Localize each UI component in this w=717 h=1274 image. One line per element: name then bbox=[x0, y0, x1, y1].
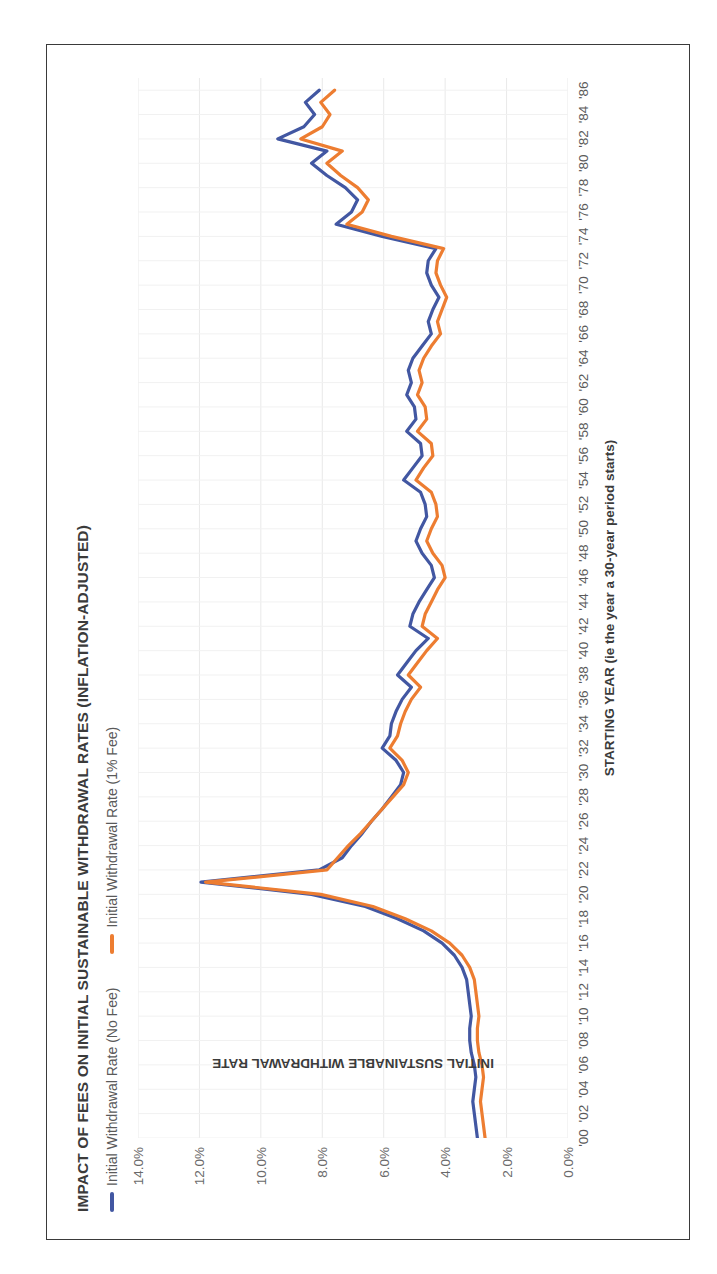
x-tick-label: '22 bbox=[576, 861, 591, 879]
legend-label-one-percent-fee: Initial Withdrawal Rate (1% Fee) bbox=[104, 727, 120, 928]
x-tick-label: '38 bbox=[576, 666, 591, 684]
x-tick-label: '06 bbox=[576, 1056, 591, 1074]
x-tick-label: '78 bbox=[576, 179, 591, 197]
y-tick-label: 10.0% bbox=[253, 1147, 268, 1185]
x-tick-label: '24 bbox=[576, 837, 591, 855]
x-tick-label: '84 bbox=[576, 106, 591, 124]
chart-svg bbox=[138, 78, 568, 1138]
x-tick-label: '46 bbox=[576, 569, 591, 587]
x-tick-label: '10 bbox=[576, 1007, 591, 1025]
x-tick-label: '04 bbox=[576, 1080, 591, 1098]
series-line-1 bbox=[206, 90, 486, 1138]
x-tick-label: '42 bbox=[576, 617, 591, 635]
x-tick-label: '44 bbox=[576, 593, 591, 611]
x-tick-label: '08 bbox=[576, 1032, 591, 1050]
x-tick-label: '00 bbox=[576, 1129, 591, 1147]
page-title: IMPACT OF FEES ON INITIAL SUSTAINABLE WI… bbox=[74, 62, 92, 1222]
figure-frame: IMPACT OF FEES ON INITIAL SUSTAINABLE WI… bbox=[46, 44, 690, 1240]
plot-area: 0.0%2.0%4.0%6.0%8.0%10.0%12.0%14.0% '00'… bbox=[138, 78, 568, 1138]
x-tick-label: '48 bbox=[576, 544, 591, 562]
x-tick-label: '18 bbox=[576, 910, 591, 928]
legend-label-no-fee: Initial Withdrawal Rate (No Fee) bbox=[104, 988, 120, 1186]
x-tick-label: '28 bbox=[576, 788, 591, 806]
y-tick-label: 8.0% bbox=[315, 1147, 330, 1178]
chart-page: IMPACT OF FEES ON INITIAL SUSTAINABLE WI… bbox=[0, 0, 717, 1274]
x-tick-label: '58 bbox=[576, 423, 591, 441]
y-tick-label: 6.0% bbox=[376, 1147, 391, 1178]
x-tick-label: '68 bbox=[576, 301, 591, 319]
x-tick-label: '40 bbox=[576, 642, 591, 660]
x-tick-label: '26 bbox=[576, 812, 591, 830]
x-tick-label: '74 bbox=[576, 228, 591, 246]
y-tick-label: 0.0% bbox=[561, 1147, 576, 1178]
x-tick-label: '16 bbox=[576, 934, 591, 952]
legend-item-no-fee[interactable]: Initial Withdrawal Rate (No Fee) bbox=[104, 988, 120, 1212]
x-tick-label: '80 bbox=[576, 155, 591, 173]
x-tick-label: '36 bbox=[576, 691, 591, 709]
x-tick-label: '70 bbox=[576, 276, 591, 294]
legend-swatch-one-percent-fee bbox=[110, 934, 114, 954]
x-tick-label: '30 bbox=[576, 764, 591, 782]
x-tick-label: '64 bbox=[576, 349, 591, 367]
rotated-chart-canvas: IMPACT OF FEES ON INITIAL SUSTAINABLE WI… bbox=[68, 62, 668, 1222]
x-tick-label: '20 bbox=[576, 886, 591, 904]
chart-legend: Initial Withdrawal Rate (No Fee) Initial… bbox=[104, 727, 120, 1212]
x-tick-label: '50 bbox=[576, 520, 591, 538]
x-tick-label: '14 bbox=[576, 959, 591, 977]
y-tick-label: 4.0% bbox=[438, 1147, 453, 1178]
x-tick-label: '56 bbox=[576, 447, 591, 465]
x-tick-label: '66 bbox=[576, 325, 591, 343]
y-tick-label: 12.0% bbox=[192, 1147, 207, 1185]
x-tick-label: '34 bbox=[576, 715, 591, 733]
legend-swatch-no-fee bbox=[110, 1192, 114, 1212]
x-tick-label: '76 bbox=[576, 203, 591, 221]
x-axis-title: STARTING YEAR (ie the year a 30-year per… bbox=[602, 78, 617, 1138]
x-tick-label: '82 bbox=[576, 130, 591, 148]
x-tick-label: '02 bbox=[576, 1105, 591, 1123]
y-tick-label: 14.0% bbox=[131, 1147, 146, 1185]
x-tick-label: '12 bbox=[576, 983, 591, 1001]
x-tick-label: '54 bbox=[576, 471, 591, 489]
x-tick-label: '72 bbox=[576, 252, 591, 270]
x-tick-label: '60 bbox=[576, 398, 591, 416]
x-tick-label: '62 bbox=[576, 374, 591, 392]
y-tick-label: 2.0% bbox=[499, 1147, 514, 1178]
x-tick-label: '32 bbox=[576, 739, 591, 757]
x-tick-label: '86 bbox=[576, 81, 591, 99]
x-tick-label: '52 bbox=[576, 496, 591, 514]
legend-item-one-percent-fee[interactable]: Initial Withdrawal Rate (1% Fee) bbox=[104, 727, 120, 954]
y-axis-title: INITIAL SUSTAINABLE WITHDRAWAL RATE bbox=[212, 1056, 494, 1071]
